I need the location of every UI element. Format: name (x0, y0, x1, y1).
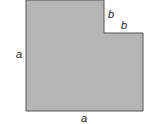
label-notch-horizontal-b: b (121, 19, 127, 31)
label-notch-vertical-b: b (108, 8, 114, 20)
label-bottom-a: a (81, 112, 87, 124)
label-left-a: a (16, 48, 22, 60)
diagram-canvas: a a b b (0, 0, 148, 124)
l-shape-region (26, 0, 143, 111)
